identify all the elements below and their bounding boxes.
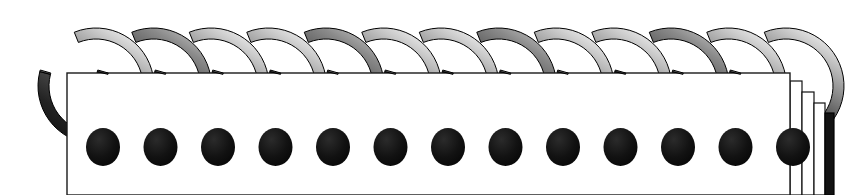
wire-end-bead-1	[86, 128, 120, 166]
illustration-stage: Spiral-bound notebook binding	[0, 0, 848, 195]
wire-end-bead-11	[661, 128, 695, 166]
wire-end-bead-10	[604, 128, 638, 166]
wire-end-bead-7	[431, 128, 465, 166]
page-edge-back-cover	[825, 113, 834, 195]
wire-end-bead-12	[719, 128, 753, 166]
wire-end-bead-2	[144, 128, 178, 166]
wire-end-bead-8	[489, 128, 523, 166]
wire-end-bead-9	[546, 128, 580, 166]
spiral-binding-illustration	[0, 0, 848, 195]
wire-end-bead-5	[316, 128, 350, 166]
page-edge-sheet-4	[814, 103, 825, 195]
wire-end-bead-13	[776, 128, 810, 166]
wire-end-bead-4	[259, 128, 293, 166]
wire-end-bead-3	[201, 128, 235, 166]
wire-end-bead-6	[374, 128, 408, 166]
